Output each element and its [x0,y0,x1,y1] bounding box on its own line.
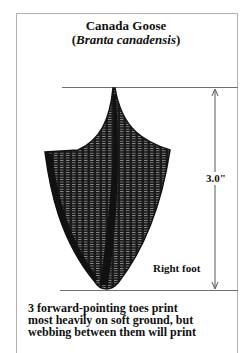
description-line: webbing between them will print [28,326,243,338]
description: 3 forward-pointing toes print most heavi… [28,302,243,338]
foot-label: Right foot [153,262,200,274]
measurement-label: 3.0" [198,172,234,185]
